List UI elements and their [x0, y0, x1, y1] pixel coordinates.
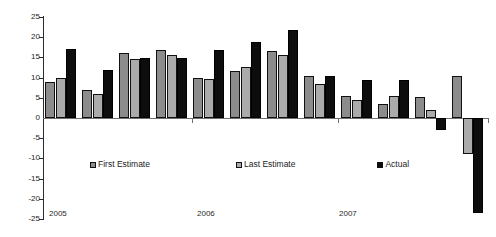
x-axis-label-2005: 2005	[49, 209, 67, 218]
x-axis-tick-year-separator-1	[192, 119, 193, 123]
x-axis-tick-end	[488, 119, 489, 123]
bar-group	[119, 17, 156, 219]
bar-chart: 2520151050-5-10-15-20-25 2005 2006 2007 …	[0, 0, 496, 237]
y-axis-tick-label: 0	[6, 114, 40, 122]
bar	[130, 59, 140, 118]
bar	[167, 55, 177, 118]
y-axis-tick-label: 25	[6, 13, 40, 21]
bar	[214, 50, 224, 118]
bar	[325, 76, 335, 118]
bar	[156, 50, 166, 118]
bar	[288, 30, 298, 118]
bar	[278, 55, 288, 118]
bar-group	[341, 17, 378, 219]
bar	[436, 118, 446, 130]
bar	[473, 118, 483, 213]
y-axis-tick-label: -20	[6, 195, 40, 203]
bar-group	[378, 17, 415, 219]
bar-group	[415, 17, 452, 219]
y-axis-tick-label: 5	[6, 94, 40, 102]
y-axis-tick-label: -10	[6, 154, 40, 162]
bar	[352, 100, 362, 118]
bar	[426, 110, 436, 118]
bar	[82, 90, 92, 118]
bar	[452, 76, 462, 118]
bar-group	[82, 17, 119, 219]
bar	[230, 71, 240, 118]
legend-swatch-icon-first-estimate	[90, 162, 96, 168]
x-axis-label-2006: 2006	[197, 209, 215, 218]
legend-entry-actual: Actual	[377, 160, 409, 169]
bar	[341, 96, 351, 118]
bar	[204, 79, 214, 118]
bar	[119, 53, 129, 118]
bar	[140, 58, 150, 118]
bar	[315, 84, 325, 118]
bar	[241, 67, 251, 118]
bar	[304, 76, 314, 118]
bar	[415, 97, 425, 118]
x-axis-tick-year-separator-2	[338, 119, 339, 123]
bar-group	[452, 17, 489, 219]
bar	[251, 42, 261, 118]
bar	[389, 96, 399, 118]
legend-label-last-estimate: Last Estimate	[244, 160, 296, 169]
legend-entry-first-estimate: First Estimate	[90, 160, 150, 169]
bar	[93, 94, 103, 118]
legend-swatch-icon-actual	[377, 162, 383, 168]
legend-label-first-estimate: First Estimate	[98, 160, 150, 169]
legend-label-actual: Actual	[385, 160, 409, 169]
y-axis-tick-label: -25	[6, 215, 40, 223]
y-axis-tick-label: 10	[6, 74, 40, 82]
y-axis-tick-label: -5	[6, 134, 40, 142]
x-axis-label-2007: 2007	[339, 209, 357, 218]
bar-group	[267, 17, 304, 219]
bar-group	[156, 17, 193, 219]
bar	[362, 80, 372, 118]
y-axis-tick-label: -15	[6, 175, 40, 183]
bar	[56, 78, 66, 118]
bar	[103, 70, 113, 118]
bar	[193, 78, 203, 118]
bar-group	[45, 17, 82, 219]
bar	[66, 49, 76, 118]
bar	[177, 58, 187, 118]
legend-entry-last-estimate: Last Estimate	[236, 160, 296, 169]
y-axis: 2520151050-5-10-15-20-25	[0, 0, 40, 237]
bar-group	[304, 17, 341, 219]
bar	[399, 80, 409, 118]
bar	[267, 51, 277, 118]
legend-swatch-icon-last-estimate	[236, 162, 242, 168]
bar	[378, 104, 388, 118]
y-axis-tick-label: 20	[6, 33, 40, 41]
bar	[45, 82, 55, 118]
plot-area	[44, 17, 488, 219]
bar-group	[230, 17, 267, 219]
y-axis-tick-label: 15	[6, 53, 40, 61]
bar	[463, 118, 473, 154]
bar-group	[193, 17, 230, 219]
chart-legend: First Estimate Last Estimate Actual	[90, 160, 409, 169]
